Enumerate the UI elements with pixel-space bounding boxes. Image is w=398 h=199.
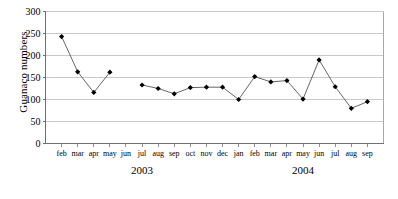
data-point	[188, 85, 193, 90]
data-point	[268, 79, 273, 84]
y-tick-label: 250	[15, 29, 41, 39]
data-point	[172, 91, 177, 96]
data-point	[317, 57, 322, 62]
y-tick-label: 100	[15, 95, 41, 105]
x-axis-year-label: 2004	[279, 164, 327, 176]
x-axis-year-label: 2003	[118, 164, 166, 176]
data-series-line	[62, 37, 368, 109]
y-tick-label: 0	[15, 139, 41, 149]
data-point	[204, 85, 209, 90]
data-point	[59, 34, 64, 39]
y-tick-label: 50	[15, 117, 41, 127]
plot-area	[0, 0, 398, 199]
y-tick-label: 200	[15, 51, 41, 61]
y-tick-label: 150	[15, 73, 41, 83]
grid-lines	[46, 12, 384, 144]
data-point	[139, 82, 144, 87]
y-tick-label: 300	[15, 7, 41, 17]
x-tick-label: sep	[356, 149, 378, 158]
data-point	[156, 86, 161, 91]
guanaco-numbers-line-chart: Guanaco numbers 050100150200250300 febma…	[0, 0, 398, 199]
